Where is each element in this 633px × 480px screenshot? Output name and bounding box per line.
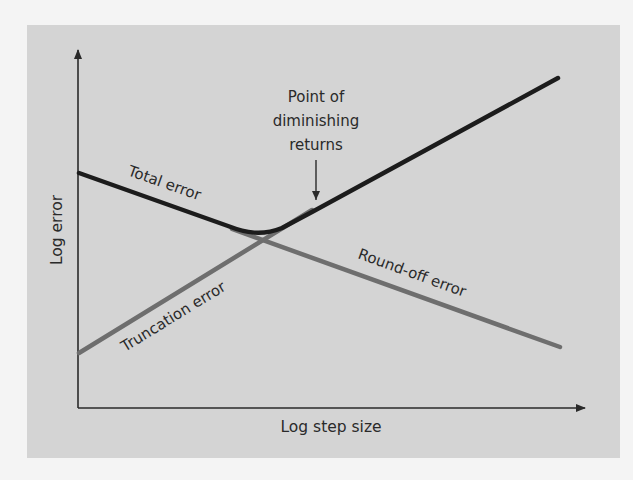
y-axis-label: Log error: [48, 194, 66, 265]
annotation-line-3: returns: [289, 136, 343, 154]
annotation-line-1: Point of: [288, 88, 345, 106]
truncation-error-label: Truncation error: [117, 277, 230, 356]
annotation-line-2: diminishing: [273, 112, 360, 130]
roundoff-error-line: [232, 229, 560, 347]
x-axis-label: Log step size: [280, 418, 381, 436]
total-error-label: Total error: [125, 161, 204, 204]
error-tradeoff-diagram: Point of diminishing returns Total error…: [0, 0, 633, 480]
